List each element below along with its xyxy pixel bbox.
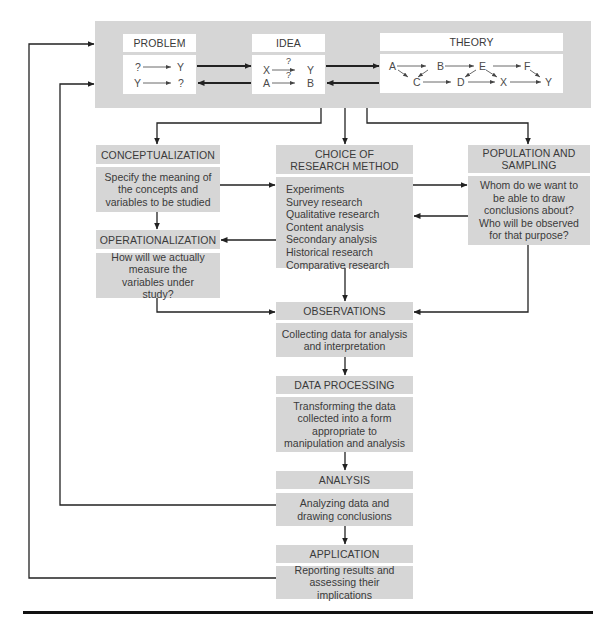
arrow-top-to-population <box>367 108 528 144</box>
operationalization-body: How will we actually measure the variabl… <box>96 253 220 298</box>
observations-title: OBSERVATIONS <box>276 302 413 320</box>
problem-title: PROBLEM <box>123 34 196 52</box>
data-processing-body: Transforming the data collected into a f… <box>276 397 413 452</box>
method-item: Survey research <box>286 196 413 209</box>
method-item: Content analysis <box>286 221 413 234</box>
method-item: Experiments <box>286 183 413 196</box>
research-method-list: Experiments Survey research Qualitative … <box>276 177 413 268</box>
population-title: POPULATION AND SAMPLING <box>468 145 590 173</box>
arrow-top-to-conceptualization <box>157 108 321 144</box>
choice-title: CHOICE OF RESEARCH METHOD <box>276 145 413 174</box>
population-title-line1: POPULATION AND <box>483 147 576 159</box>
application-body: Reporting results and assessing their im… <box>276 566 413 599</box>
choice-title-line2: RESEARCH METHOD <box>290 160 398 172</box>
population-title-line2: SAMPLING <box>501 159 556 171</box>
conceptualization-body: Specify the meaning of the concepts and … <box>96 167 220 212</box>
bottom-rule <box>23 611 593 614</box>
idea-title: IDEA <box>252 34 325 52</box>
feedback-application-to-problem <box>29 44 276 578</box>
idea-body <box>252 55 325 94</box>
method-item: Comparative research <box>286 259 413 272</box>
method-item: Historical research <box>286 246 413 259</box>
data-processing-title: DATA PROCESSING <box>276 376 413 394</box>
arrow-population-to-observations <box>414 245 528 312</box>
analysis-title: ANALYSIS <box>276 471 413 489</box>
choice-title-line1: CHOICE OF <box>315 148 374 160</box>
analysis-body: Analyzing data and drawing conclusions <box>276 493 413 526</box>
theory-title: THEORY <box>380 33 563 51</box>
observations-body: Collecting data for analysis and interpr… <box>276 323 413 357</box>
population-body: Whom do we want to be able to draw concl… <box>468 176 590 245</box>
problem-body <box>123 55 196 94</box>
method-item: Secondary analysis <box>286 233 413 246</box>
operationalization-title: OPERATIONALIZATION <box>96 230 220 249</box>
theory-body <box>380 54 563 93</box>
method-item: Qualitative research <box>286 208 413 221</box>
application-title: APPLICATION <box>276 545 413 563</box>
conceptualization-title: CONCEPTUALIZATION <box>96 145 220 164</box>
